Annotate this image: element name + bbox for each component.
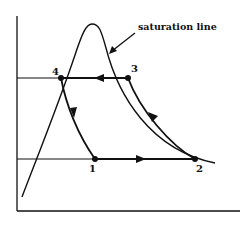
point-2-label: 2 [196, 163, 203, 174]
arrow-left-icon [94, 74, 104, 82]
annotation-arrow-icon [109, 46, 117, 54]
process-4-1 [61, 78, 95, 159]
thermodynamic-cycle-diagram: saturation line 4 3 1 2 [0, 0, 243, 226]
point-3 [125, 75, 131, 81]
arrow-right-icon [136, 155, 146, 163]
point-2 [192, 156, 198, 162]
saturation-dome [22, 24, 215, 197]
point-4-label: 4 [52, 66, 59, 77]
saturation-line-label: saturation line [138, 21, 217, 32]
point-3-label: 3 [131, 63, 138, 74]
diagram-canvas: saturation line 4 3 1 2 [0, 0, 243, 226]
point-1 [92, 156, 98, 162]
annotation-leader [112, 33, 135, 51]
process-2-3 [128, 78, 195, 159]
point-1-label: 1 [89, 163, 96, 174]
